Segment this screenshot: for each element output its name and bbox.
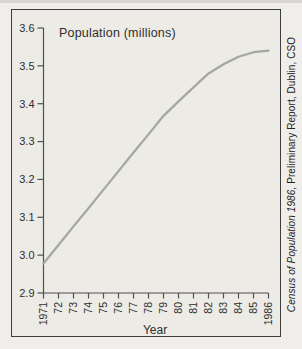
y-tick-label: 3.2 [19,173,34,185]
source-citation-title: Census of Population 1986, [287,187,298,312]
x-tick-label: 76 [112,302,124,314]
x-tick-label: 81 [187,302,199,314]
x-tick-label: 73 [67,302,79,314]
y-tick-label: 3.1 [19,211,34,223]
x-tick-label: 84 [232,302,244,314]
x-tick-label: 1986 [262,302,274,326]
y-tick-label: 3.4 [19,98,34,110]
y-tick-label: 2.9 [19,287,34,299]
x-axis-title: Year [42,323,268,337]
x-tick-label: 79 [157,302,169,314]
y-tick-label: 3.0 [19,249,34,261]
y-tick-label: 3.3 [19,135,34,147]
x-tick-label: 72 [52,302,64,314]
x-tick-label: 77 [127,302,139,314]
x-tick-label: 80 [172,302,184,314]
x-tick-label: 83 [217,302,229,314]
x-tick-label: 74 [82,302,94,314]
x-tick-label: 82 [202,302,214,314]
source-citation-detail: Preliminary Report, Dublin, CSO [287,37,298,187]
population-curve [44,51,269,264]
x-tick-label: 78 [142,302,154,314]
plot-area: 2.93.03.13.23.33.43.53.61971727374757677… [0,0,302,349]
y-tick-label: 3.5 [19,60,34,72]
y-tick-label: 3.6 [19,22,34,34]
x-tick-label: 75 [97,302,109,314]
source-citation-column: Census of Population 1986, Preliminary R… [282,0,302,349]
x-tick-label: 85 [247,302,259,314]
x-tick-label: 1971 [37,302,49,326]
source-citation: Census of Population 1986, Preliminary R… [287,37,298,312]
